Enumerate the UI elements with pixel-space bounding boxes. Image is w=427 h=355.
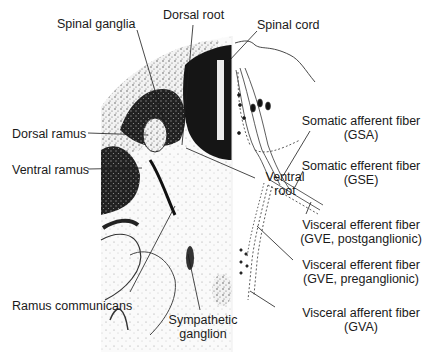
gse-line1: Somatic efferent fiber <box>295 159 427 173</box>
label-spinal-cord: Spinal cord <box>257 18 320 32</box>
gve-pre-line1: Visceral efferent fiber <box>295 258 427 272</box>
gve-post-line2: (GVE, postganglionic) <box>295 232 427 246</box>
label-sympathetic-ganglion: Sympathetic ganglion <box>163 313 243 341</box>
label-ramus-communicans: Ramus communicans <box>12 299 132 313</box>
label-dorsal-ramus: Dorsal ramus <box>12 127 86 141</box>
label-gve-postganglionic: Visceral efferent fiber (GVE, postgangli… <box>295 218 427 246</box>
label-gva: Visceral afferent fiber (GVA) <box>295 306 427 334</box>
sympathetic-line2: ganglion <box>163 327 243 341</box>
label-ventral-ramus: Ventral ramus <box>12 163 89 177</box>
gsa-line2: (GSA) <box>295 128 427 142</box>
label-spinal-ganglia: Spinal ganglia <box>57 17 136 31</box>
label-gve-preganglionic: Visceral efferent fiber (GVE, preganglio… <box>295 258 427 286</box>
label-gse: Somatic efferent fiber (GSE) <box>295 159 427 187</box>
label-dorsal-root: Dorsal root <box>163 8 224 22</box>
label-gsa: Somatic afferent fiber (GSA) <box>295 114 427 142</box>
spinal-nerve-diagram: Spinal ganglia Dorsal root Spinal cord D… <box>0 0 427 355</box>
sympathetic-line1: Sympathetic <box>163 313 243 327</box>
gse-line2: (GSE) <box>295 173 427 187</box>
gve-post-line1: Visceral efferent fiber <box>295 218 427 232</box>
gva-line2: (GVA) <box>295 320 427 334</box>
gsa-line1: Somatic afferent fiber <box>295 114 427 128</box>
gva-line1: Visceral afferent fiber <box>295 306 427 320</box>
gve-pre-line2: (GVE, preganglionic) <box>295 272 427 286</box>
